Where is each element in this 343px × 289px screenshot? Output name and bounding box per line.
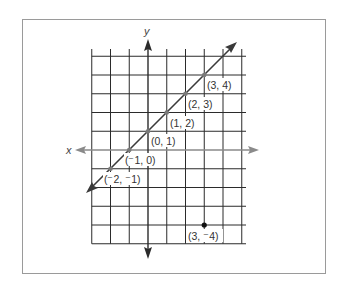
point-3-neg4 (202, 222, 207, 227)
point-labels: (⁻2, ⁻1) (⁻1, 0) (0, 1) (1, 2) (2, 3) (3… (103, 78, 237, 242)
point-0-1 (146, 129, 151, 134)
label-3-4: (3, 4) (207, 79, 232, 91)
label-0-1: (0, 1) (151, 135, 176, 147)
line-series (86, 42, 237, 193)
label-neg2-neg1: (⁻2, ⁻1) (104, 173, 141, 185)
point-neg1-0 (127, 148, 132, 153)
x-axis-label: x (65, 144, 72, 156)
label-3-neg4: (3, ⁻4) (188, 230, 219, 242)
point-1-2 (164, 110, 169, 115)
point-2-3 (183, 91, 188, 96)
label-1-2: (1, 2) (170, 117, 195, 129)
label-2-3: (2, 3) (188, 98, 213, 110)
point-neg2-neg1 (108, 166, 113, 171)
label-neg1-0: (⁻1, 0) (125, 154, 156, 166)
coordinate-plane: x y (⁻2, ⁻1) (⁻1, 0) (0, 1) (1, 2) (2, 3… (0, 0, 343, 289)
point-3-4 (202, 73, 207, 78)
y-axis-label: y (143, 25, 151, 37)
